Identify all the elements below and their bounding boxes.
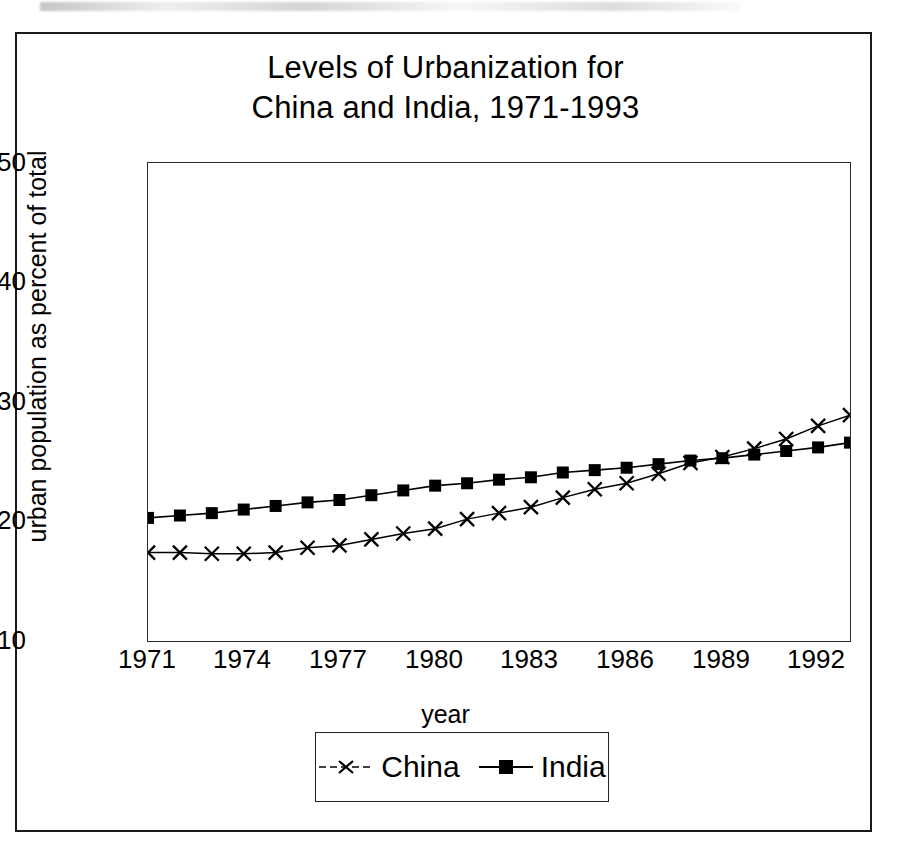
data-point bbox=[333, 494, 345, 506]
x-axis-title: year bbox=[17, 700, 874, 729]
data-point bbox=[238, 504, 250, 516]
x-tick-label-1983: 1983 bbox=[474, 646, 584, 672]
legend-label-india: India bbox=[541, 752, 606, 782]
data-point bbox=[270, 500, 282, 512]
data-point bbox=[812, 441, 824, 453]
data-point bbox=[492, 506, 506, 520]
data-point bbox=[748, 449, 760, 461]
data-point bbox=[779, 432, 793, 446]
y-axis-title: urban population as percent of total bbox=[25, 112, 50, 582]
filled-square-marker-icon bbox=[478, 756, 534, 778]
data-point bbox=[716, 452, 728, 464]
data-point bbox=[365, 489, 377, 501]
data-point bbox=[493, 474, 505, 486]
data-point bbox=[588, 482, 602, 496]
legend-label-china: China bbox=[381, 752, 459, 782]
x-tick-label-1992: 1992 bbox=[761, 646, 871, 672]
data-point bbox=[460, 512, 474, 526]
series-india bbox=[148, 437, 850, 524]
y-tick-label-10: 10 bbox=[0, 627, 26, 653]
x-tick-label-1989: 1989 bbox=[666, 646, 776, 672]
data-point bbox=[621, 462, 633, 474]
data-point bbox=[206, 507, 218, 519]
data-point bbox=[843, 408, 850, 422]
x-cross-marker-icon bbox=[318, 756, 374, 778]
x-tick-label-1974: 1974 bbox=[187, 646, 297, 672]
data-point bbox=[620, 476, 634, 490]
chart-title-line-1: Levels of Urbanization for bbox=[17, 48, 874, 88]
data-point bbox=[589, 464, 601, 476]
data-point bbox=[302, 496, 314, 508]
data-point bbox=[397, 484, 409, 496]
scan-artifact bbox=[0, 0, 898, 26]
x-tick-label-1977: 1977 bbox=[283, 646, 393, 672]
figure-frame: Levels of Urbanization for China and Ind… bbox=[15, 32, 872, 832]
chart-title: Levels of Urbanization for China and Ind… bbox=[17, 48, 874, 128]
legend-entry-china[interactable]: China bbox=[318, 752, 459, 782]
x-tick-label-1971: 1971 bbox=[92, 646, 202, 672]
legend-entry-india[interactable]: India bbox=[478, 752, 606, 782]
data-point bbox=[653, 458, 665, 470]
x-tick-label-1980: 1980 bbox=[379, 646, 489, 672]
data-point bbox=[780, 445, 792, 457]
data-point bbox=[844, 437, 850, 449]
series-layer bbox=[148, 408, 850, 561]
data-point bbox=[364, 532, 378, 546]
data-point bbox=[524, 500, 538, 514]
data-point bbox=[684, 455, 696, 467]
x-tick-label-1986: 1986 bbox=[570, 646, 680, 672]
chart-legend: China India bbox=[315, 732, 609, 802]
plot-area bbox=[147, 162, 851, 642]
data-point bbox=[429, 480, 441, 492]
data-point bbox=[148, 512, 154, 524]
data-point bbox=[557, 467, 569, 479]
plot-series-svg bbox=[148, 163, 850, 641]
data-point bbox=[461, 477, 473, 489]
scan-smear bbox=[40, 2, 740, 11]
data-point bbox=[556, 491, 570, 505]
data-point bbox=[525, 471, 537, 483]
data-point bbox=[811, 419, 825, 433]
chart-title-line-2: China and India, 1971-1993 bbox=[17, 88, 874, 128]
data-point bbox=[174, 510, 186, 522]
